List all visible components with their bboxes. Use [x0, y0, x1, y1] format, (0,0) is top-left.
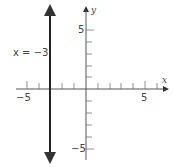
- coordinate-plane: [0, 0, 173, 167]
- y-tick-label-5: 5: [78, 25, 84, 35]
- equation-label: x = −3: [13, 48, 48, 58]
- y-tick-label-neg5: −5: [71, 144, 86, 154]
- x-tick-label-5: 5: [141, 93, 147, 103]
- x-tick-label-neg5: −5: [16, 93, 31, 103]
- y-axis-label: y: [91, 6, 96, 15]
- x-ticks: [27, 81, 157, 89]
- x-axis-label: x: [162, 76, 167, 85]
